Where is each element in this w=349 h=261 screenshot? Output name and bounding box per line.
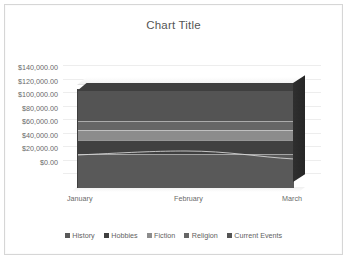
legend-item-fiction[interactable]: Fiction <box>147 231 176 240</box>
legend-swatch-icon <box>184 233 189 238</box>
x-axis-tick: February <box>174 194 203 203</box>
legend-label: Fiction <box>154 231 175 240</box>
stacked-area-3d-block <box>77 83 305 188</box>
y-axis-tick: $80,000.00 <box>5 102 61 116</box>
y-axis-tick: $40,000.00 <box>5 129 61 143</box>
legend-swatch-icon <box>147 233 152 238</box>
legend-item-history[interactable]: History <box>65 231 95 240</box>
legend-item-hobbies[interactable]: Hobbies <box>104 231 138 240</box>
y-axis-tick: $60,000.00 <box>5 115 61 129</box>
y-axis-tick: $0.00 <box>5 156 61 170</box>
legend-label: Religion <box>192 231 218 240</box>
legend-label: Current Events <box>234 231 282 240</box>
legend-swatch-icon <box>227 233 232 238</box>
series-contour-overlay <box>78 89 294 188</box>
page-title: Chart Title <box>5 19 342 31</box>
legend-item-current-events[interactable]: Current Events <box>227 231 282 240</box>
x-axis-tick: January <box>67 194 93 203</box>
legend-label: Hobbies <box>111 231 137 240</box>
gridline <box>63 65 321 66</box>
x-axis: January February March <box>63 194 321 208</box>
block-top-face <box>77 83 303 91</box>
y-axis-tick: $140,000.00 <box>5 61 61 75</box>
y-axis-tick: $100,000.00 <box>5 88 61 102</box>
chart-container[interactable]: Chart Title $140,000.00 $120,000.00 $100… <box>4 4 343 255</box>
y-axis: $140,000.00 $120,000.00 $100,000.00 $80,… <box>5 61 61 169</box>
legend-swatch-icon <box>104 233 109 238</box>
y-axis-tick: $20,000.00 <box>5 142 61 156</box>
chart-legend: History Hobbies Fiction Religion Current… <box>5 231 342 240</box>
block-side-face <box>293 75 305 182</box>
series-front-face <box>77 89 294 188</box>
legend-label: History <box>72 231 94 240</box>
plot-area <box>63 65 321 193</box>
legend-item-religion[interactable]: Religion <box>184 231 217 240</box>
legend-swatch-icon <box>65 233 70 238</box>
x-axis-tick: March <box>282 194 302 203</box>
y-axis-tick: $120,000.00 <box>5 75 61 89</box>
